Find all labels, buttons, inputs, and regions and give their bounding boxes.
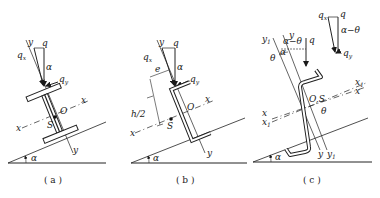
x-right-label: x	[205, 94, 210, 104]
qx-arrow	[162, 48, 174, 85]
force-triangle-inset: qx q α−θ qy	[318, 9, 361, 60]
ground-alpha: α	[31, 153, 37, 163]
y-top-label: y	[158, 37, 165, 47]
theta-label: θ	[270, 53, 276, 63]
s-label: S	[47, 120, 53, 130]
angle-arc	[270, 155, 271, 162]
inset-q-label: q	[340, 9, 346, 19]
panel-b: α y y x x q qx α qy e h/2 S O ( b	[130, 37, 247, 185]
theta-bottom-label: θ	[321, 106, 327, 116]
y-top-label: y	[27, 37, 34, 47]
alpha-label: α	[177, 62, 183, 72]
q-label: q	[173, 38, 179, 48]
angle-arc	[148, 156, 149, 163]
qx-label: qx	[143, 52, 153, 63]
alpha-label: α	[46, 62, 52, 72]
x-right-label: x	[81, 95, 86, 105]
alpha-minus-theta-label: α−θ	[283, 36, 303, 46]
qy-label: qy	[190, 74, 200, 86]
os-label: O,S	[309, 94, 325, 104]
y-axis	[157, 40, 205, 153]
s-label: S	[167, 121, 173, 131]
e-label: e	[155, 64, 160, 74]
y-bottom-label: y	[206, 148, 213, 158]
y1-bottom-label: y1	[326, 149, 336, 160]
qx-arrow	[34, 48, 43, 85]
angle-arc	[25, 156, 26, 163]
q-label: q	[42, 38, 48, 48]
inset-alpha-minus-theta-label: α−θ	[341, 25, 361, 35]
qx-label: qx	[17, 50, 27, 61]
o-label: O	[187, 102, 195, 112]
y-bottom-label: y	[317, 149, 324, 159]
y-bottom-label: y	[72, 145, 79, 155]
x-axis	[135, 100, 215, 133]
x-left-label: x	[130, 128, 135, 138]
h2-label: h/2	[131, 109, 146, 119]
o-label: O	[60, 106, 68, 116]
panel-a: α y y x x q qx α qy O S ( a )	[8, 37, 106, 185]
x-right-label: x	[355, 86, 360, 96]
ground-alpha: α	[153, 153, 159, 163]
caption-a: ( a )	[44, 175, 62, 185]
ground-alpha: α	[275, 152, 281, 162]
y1-top-label: y1	[261, 34, 271, 45]
caption-b: ( b )	[176, 175, 195, 185]
i-beam-section	[26, 83, 78, 143]
caption-c: ( c )	[303, 175, 321, 185]
x1-left-label: x1	[262, 117, 271, 128]
qy-label: qy	[59, 74, 69, 86]
centroid-point	[53, 115, 57, 119]
x-left-label: x	[16, 123, 21, 133]
q-label: q	[309, 35, 315, 45]
panel-c: α y1 y y y1 x x1 x1 x α−θ α θ q qx q	[253, 9, 372, 185]
alpha-label: α	[280, 47, 286, 57]
inset-qy-label: qy	[343, 48, 353, 60]
beam-bending-diagram: α y y x x q qx α qy O S ( a )	[0, 0, 380, 198]
h2-dimension	[150, 79, 160, 125]
inset-qx-label: qx	[318, 10, 328, 21]
